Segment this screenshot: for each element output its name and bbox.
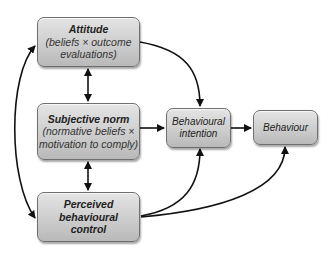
subjective-norm-subtitle-2: motivation to comply) <box>39 138 138 151</box>
attitude-subtitle-1: (beliefs × outcome <box>45 36 131 49</box>
node-behaviour: Behaviour <box>253 110 318 145</box>
intention-label-1: Behavioural <box>172 116 225 128</box>
node-attitude: Attitude (beliefs × outcome evaluations) <box>37 17 140 67</box>
arrow-attitude-to-intention <box>140 42 200 106</box>
arrow-pbc-to-behaviour <box>141 147 285 217</box>
arrow-pbc-to-intention <box>141 149 200 216</box>
node-perceived-behavioural-control: Perceived behavioural control <box>37 192 140 242</box>
attitude-title: Attitude <box>69 23 109 36</box>
behaviour-label: Behaviour <box>263 122 308 134</box>
subjective-norm-subtitle-1: (normative beliefs × <box>43 125 135 138</box>
subjective-norm-title: Subjective norm <box>48 113 130 126</box>
node-subjective-norm: Subjective norm (normative beliefs × mot… <box>37 103 140 160</box>
attitude-subtitle-2: evaluations) <box>60 48 117 61</box>
node-behavioural-intention: Behavioural intention <box>166 108 231 148</box>
pbc-title-3: control <box>71 223 107 236</box>
intention-label-2: intention <box>180 128 218 140</box>
pbc-title-2: behavioural <box>59 211 118 224</box>
pbc-title-1: Perceived <box>64 198 114 211</box>
arrow-attitude-pbc <box>15 46 35 218</box>
